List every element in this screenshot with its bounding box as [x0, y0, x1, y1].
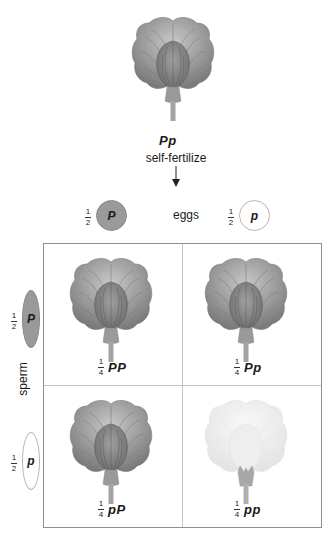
- offspring-PP-flower-purple-icon: [69, 256, 153, 366]
- parent-genotype: Pp: [159, 133, 177, 148]
- parent-caption: self-fertilize: [126, 151, 226, 165]
- cell-pP-label: 14 pP: [98, 500, 126, 519]
- egg-recessive-p: p: [239, 200, 270, 231]
- punnett-square: 14 PP 14 Pp 14 pP 14 pp: [43, 243, 322, 528]
- offspring-pp-flower-white-icon: [204, 398, 288, 508]
- sperm-recessive-p: p: [22, 432, 40, 490]
- eggs-label: eggs: [166, 208, 206, 222]
- egg-dominant-P: P: [96, 200, 127, 231]
- cell-PP-label: 14 PP: [98, 358, 126, 377]
- egg-p-fraction: 12: [228, 208, 234, 227]
- offspring-Pp-flower-purple-icon: [204, 256, 288, 366]
- sperm-p-fraction: 12: [11, 454, 17, 473]
- cell-pp-label: 14 pp: [234, 500, 261, 519]
- down-arrow-icon: [170, 166, 182, 188]
- grid-horizontal-divider: [44, 385, 321, 386]
- sperm-label: sperm: [16, 362, 30, 395]
- sperm-P-fraction: 12: [11, 312, 17, 331]
- sperm-dominant-P: P: [22, 290, 40, 348]
- egg-P-fraction: 12: [85, 208, 91, 227]
- cell-Pp-label: 14 Pp: [234, 358, 262, 377]
- parent-flower-purple-icon: [131, 14, 215, 126]
- offspring-pP-flower-purple-icon: [69, 398, 153, 508]
